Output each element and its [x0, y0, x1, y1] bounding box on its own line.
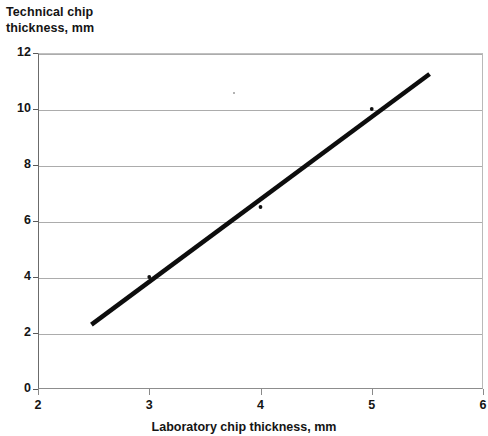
x-tick-mark-5 [372, 389, 373, 395]
x-tick-mark-2 [38, 389, 39, 395]
x-tick-mark-3 [149, 389, 150, 395]
scan-artifact-speck [233, 92, 235, 94]
y-axis-title: Technical chipthickness, mm [6, 4, 94, 36]
y-tick-label-2: 2 [0, 325, 31, 339]
y-tick-label-8: 8 [0, 157, 31, 171]
y-tick-label-0: 0 [0, 381, 31, 395]
x-tick-label-5: 5 [352, 398, 392, 412]
x-tick-mark-4 [261, 389, 262, 395]
plot-area [38, 53, 483, 389]
x-tick-label-4: 4 [241, 398, 281, 412]
y-axis-title-line-1: Technical chip [6, 5, 93, 19]
y-tick-mark-8 [33, 165, 38, 166]
x-tick-label-2: 2 [18, 398, 58, 412]
x-tick-label-3: 3 [129, 398, 169, 412]
y-tick-mark-12 [33, 53, 38, 54]
x-axis-title: Laboratory chip thickness, mm [0, 420, 488, 434]
x-tick-mark-6 [483, 389, 484, 395]
y-tick-mark-10 [33, 109, 38, 110]
gridline-y-6 [39, 222, 482, 223]
y-tick-label-4: 4 [0, 269, 31, 283]
chart-figure: Technical chipthickness, mm 024681012 23… [0, 0, 488, 436]
gridline-y-4 [39, 278, 482, 279]
y-tick-mark-6 [33, 221, 38, 222]
x-tick-label-6: 6 [463, 398, 488, 412]
y-tick-label-12: 12 [0, 45, 31, 59]
gridline-y-12 [39, 54, 482, 55]
y-axis-title-line-2: thickness, mm [6, 21, 94, 35]
y-tick-label-10: 10 [0, 101, 31, 115]
gridline-y-10 [39, 110, 482, 111]
y-tick-mark-2 [33, 333, 38, 334]
gridline-y-2 [39, 334, 482, 335]
gridline-y-8 [39, 166, 482, 167]
y-tick-label-6: 6 [0, 213, 31, 227]
y-tick-mark-4 [33, 277, 38, 278]
